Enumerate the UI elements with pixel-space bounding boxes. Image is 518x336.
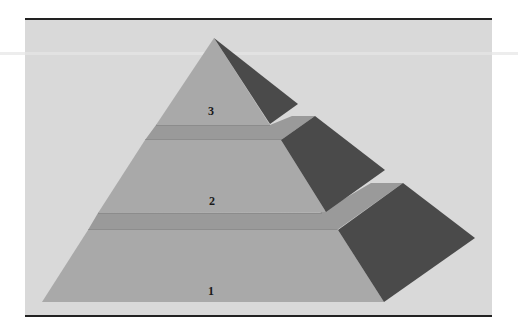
- level-label-1: 1: [208, 284, 214, 298]
- bottom-rule: [25, 315, 492, 317]
- pyramid-diagram: 1 2 3: [0, 0, 518, 336]
- background-streak: [0, 52, 518, 55]
- level-label-2: 2: [209, 194, 215, 208]
- level-label-3: 3: [208, 104, 214, 118]
- top-rule: [25, 18, 492, 20]
